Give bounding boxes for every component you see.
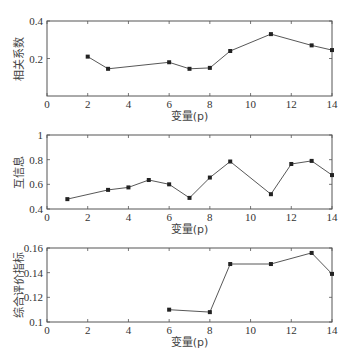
data-point-marker xyxy=(167,60,171,64)
x-tick-label: 2 xyxy=(85,324,91,336)
data-point-marker xyxy=(310,159,314,163)
correlation-coefficient-plot: 024681012140.20.4变量(p)相关系数 xyxy=(12,15,338,123)
x-tick-label: 0 xyxy=(44,98,50,110)
x-axis-label: 变量(p) xyxy=(171,335,209,349)
x-tick-label: 6 xyxy=(166,324,172,336)
x-tick-label: 14 xyxy=(327,324,339,336)
x-tick-label: 10 xyxy=(245,211,257,223)
data-point-marker xyxy=(208,66,212,70)
data-point-marker xyxy=(188,196,192,200)
data-point-marker xyxy=(228,49,232,53)
y-tick-label: 0.12 xyxy=(24,291,43,303)
x-tick-label: 12 xyxy=(286,211,297,223)
x-tick-label: 6 xyxy=(166,211,172,223)
x-tick-label: 4 xyxy=(126,324,132,336)
y-tick-label: 0.6 xyxy=(29,178,43,190)
x-axis-label: 变量(p) xyxy=(171,109,209,123)
y-axis-label: 互信息 xyxy=(12,156,26,189)
x-tick-label: 10 xyxy=(245,324,257,336)
data-point-marker xyxy=(208,176,212,180)
x-tick-label: 2 xyxy=(85,98,91,110)
data-series-line xyxy=(88,34,332,69)
data-point-marker xyxy=(126,185,130,189)
y-tick-label: 0.4 xyxy=(29,203,43,215)
data-point-marker xyxy=(86,55,90,59)
data-point-marker xyxy=(106,188,110,192)
x-tick-label: 0 xyxy=(44,211,50,223)
x-tick-label: 0 xyxy=(44,324,50,336)
composite-evaluation-index-plot: 024681012140.10.120.140.16变量(p)综合评价指标 xyxy=(12,242,338,349)
x-tick-label: 6 xyxy=(166,98,172,110)
y-axis-label: 综合评价指标 xyxy=(12,252,26,318)
x-axis-label: 变量(p) xyxy=(171,222,209,236)
y-tick-label: 0.2 xyxy=(29,53,43,65)
data-point-marker xyxy=(330,173,334,177)
y-tick-label: 0.16 xyxy=(24,242,44,254)
data-series-line xyxy=(67,161,332,199)
x-tick-label: 10 xyxy=(245,98,257,110)
data-point-marker xyxy=(65,197,69,201)
y-axis-label: 相关系数 xyxy=(12,37,26,81)
axes-frame xyxy=(47,21,332,96)
data-point-marker xyxy=(167,182,171,186)
x-tick-label: 4 xyxy=(126,211,132,223)
y-tick-label: 0.8 xyxy=(29,154,43,166)
data-point-marker xyxy=(269,262,273,266)
data-point-marker xyxy=(330,48,334,52)
x-tick-label: 12 xyxy=(286,324,297,336)
y-tick-label: 0.1 xyxy=(29,316,43,328)
data-point-marker xyxy=(228,262,232,266)
data-point-marker xyxy=(310,43,314,47)
data-point-marker xyxy=(106,67,110,71)
x-tick-label: 4 xyxy=(126,98,132,110)
x-tick-label: 8 xyxy=(207,211,213,223)
y-tick-label: 1 xyxy=(38,129,44,141)
data-point-marker xyxy=(228,160,232,164)
x-tick-label: 14 xyxy=(327,211,339,223)
data-point-marker xyxy=(289,162,293,166)
x-tick-label: 8 xyxy=(207,324,213,336)
data-point-marker xyxy=(188,67,192,71)
x-tick-label: 8 xyxy=(207,98,213,110)
data-point-marker xyxy=(330,272,334,276)
chart-figure: 024681012140.20.4变量(p)相关系数 024681012140.… xyxy=(0,0,348,358)
data-point-marker xyxy=(167,308,171,312)
x-tick-label: 14 xyxy=(327,98,339,110)
mutual-information-plot: 024681012140.40.60.81变量(p)互信息 xyxy=(12,129,338,236)
data-point-marker xyxy=(208,310,212,314)
x-tick-label: 12 xyxy=(286,98,297,110)
data-point-marker xyxy=(147,178,151,182)
data-point-marker xyxy=(269,192,273,196)
data-series-line xyxy=(169,253,332,312)
data-point-marker xyxy=(269,32,273,36)
data-point-marker xyxy=(310,251,314,255)
y-tick-label: 0.4 xyxy=(29,15,43,27)
y-tick-label: 0.14 xyxy=(24,267,44,279)
x-tick-label: 2 xyxy=(85,211,91,223)
